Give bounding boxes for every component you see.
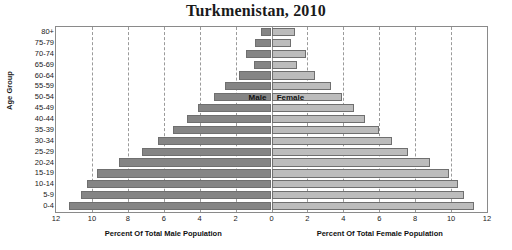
bar-female: [272, 148, 408, 156]
bar-female: [272, 50, 306, 58]
bar-male: [119, 158, 272, 166]
bar-row: [56, 136, 487, 147]
bar-row: [56, 158, 487, 169]
bar-row: [56, 27, 487, 38]
page-title: Turkmenistan, 2010: [0, 2, 512, 20]
x-axis-tick: 8: [403, 214, 427, 223]
y-axis-label: 65-69: [2, 60, 54, 71]
x-axis-tick: 12: [44, 214, 68, 223]
bar-row: [56, 147, 487, 158]
bar-female: [272, 169, 450, 177]
bar-rows: MaleFemale: [56, 27, 487, 212]
bar-male: [198, 104, 272, 112]
bar-female: [272, 202, 475, 210]
y-axis-label: 20-24: [2, 158, 54, 169]
bar-female: [272, 39, 292, 47]
bar-row: [56, 179, 487, 190]
bar-male: [142, 148, 271, 156]
y-axis-label: 75-79: [2, 38, 54, 49]
bar-female: [272, 137, 392, 145]
bar-male: [239, 71, 271, 79]
x-axis-tick: 12: [475, 214, 499, 223]
bar-male: [158, 137, 271, 145]
y-axis-label: 35-39: [2, 125, 54, 136]
bar-male: [187, 115, 271, 123]
bar-female: [272, 61, 297, 69]
y-axis-labels: 80+75-7970-7465-6960-6455-5950-5445-4940…: [0, 26, 54, 213]
bar-row: [56, 103, 487, 114]
bar-female: [272, 71, 315, 79]
bar-row: [56, 125, 487, 136]
y-axis-label: 70-74: [2, 49, 54, 60]
bar-male: [254, 61, 272, 69]
bar-male: [69, 202, 272, 210]
bar-male: [173, 126, 272, 134]
bar-female: [272, 115, 365, 123]
x-axis-tick: 4: [188, 214, 212, 223]
x-axis-tick: 8: [116, 214, 140, 223]
bar-row: [56, 168, 487, 179]
bar-male: [255, 39, 271, 47]
y-axis-label: 40-44: [2, 114, 54, 125]
y-axis-label: 45-49: [2, 103, 54, 114]
x-axis-tick: 4: [331, 214, 355, 223]
bar-row: [56, 38, 487, 49]
x-axis-tick: 2: [224, 214, 248, 223]
bar-row: MaleFemale: [56, 92, 487, 103]
y-axis-label: 55-59: [2, 81, 54, 92]
bar-row: [56, 114, 487, 125]
x-axis-tick: 10: [439, 214, 463, 223]
population-pyramid-chart: Turkmenistan, 2010 Age Group 80+75-7970-…: [0, 0, 512, 250]
bar-row: [56, 71, 487, 82]
y-axis-label: 25-29: [2, 147, 54, 158]
bar-row: [56, 60, 487, 71]
x-axis-tick: 10: [80, 214, 104, 223]
bar-male: [97, 169, 271, 177]
bar-row: [56, 201, 487, 212]
x-axis-tick: 0: [260, 214, 284, 223]
bar-female: [272, 180, 459, 188]
bar-female: [272, 126, 380, 134]
x-axis-ticks: 12108642024681012: [55, 214, 488, 226]
bar-row: [56, 49, 487, 60]
y-axis-label: 0-4: [2, 201, 54, 212]
bar-female: [272, 82, 331, 90]
bar-male: [261, 28, 272, 36]
y-axis-label: 50-54: [2, 92, 54, 103]
y-axis-label: 80+: [2, 27, 54, 38]
y-axis-label: 60-64: [2, 71, 54, 82]
bar-female: [272, 104, 355, 112]
bar-female: [272, 158, 430, 166]
bar-male: [246, 50, 271, 58]
legend-label-female: Female: [274, 93, 305, 103]
x-axis-tick: 6: [367, 214, 391, 223]
y-axis-label: 15-19: [2, 168, 54, 179]
x-axis-title-male: Percent Of Total Male Population: [55, 229, 272, 238]
plot-area: MaleFemale: [55, 26, 488, 213]
y-axis-label: 30-34: [2, 136, 54, 147]
bar-male: [81, 191, 271, 199]
bar-row: [56, 190, 487, 201]
bar-male: [225, 82, 272, 90]
bar-male: [87, 180, 272, 188]
x-axis-tick: 2: [295, 214, 319, 223]
x-axis-title-female: Percent Of Total Female Population: [272, 229, 489, 238]
bar-row: [56, 81, 487, 92]
legend-label-male: Male: [249, 93, 270, 103]
y-axis-label: 10-14: [2, 179, 54, 190]
y-axis-label: 5-9: [2, 190, 54, 201]
bar-female: [272, 191, 464, 199]
bar-female: [272, 28, 295, 36]
x-axis-tick: 6: [152, 214, 176, 223]
